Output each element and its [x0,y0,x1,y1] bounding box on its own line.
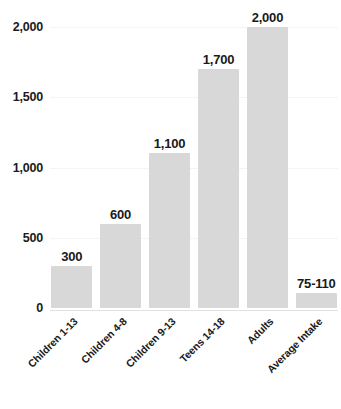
bar-value-label: 75-110 [297,276,336,291]
bar-group: 1,700 [198,0,239,309]
bar[interactable] [100,224,141,308]
bar-group: 2,000 [247,0,288,309]
bar[interactable] [247,27,288,308]
y-axis-tick-label: 2,000 [13,20,43,34]
bar-group: 300 [51,0,92,309]
bar-series: 3006001,1001,7002,00075-110 [50,0,338,309]
bar-value-label: 2,000 [252,10,284,25]
bar[interactable] [51,266,92,308]
x-axis-tick-label: Children 9-13 [123,315,178,370]
bar-value-label: 1,100 [154,136,186,151]
bar-group: 75-110 [296,0,337,309]
y-axis-tick-label: 1,500 [13,90,43,104]
bar[interactable] [149,153,190,308]
x-axis-category-labels: Children 1-13Children 4-8Children 9-13Te… [50,311,338,409]
bar[interactable] [296,293,337,308]
bar-value-label: 300 [61,249,82,264]
x-axis-tick-label: Children 4-8 [79,315,130,366]
bar-chart: 05001,0001,5002,000 3006001,1001,7002,00… [0,0,341,409]
plot-area: 3006001,1001,7002,00075-110 [50,0,338,309]
y-axis-tick-label: 0 [36,301,43,315]
x-axis-tick-label: Adults [245,315,276,346]
x-axis-tick-label: Teens 14-18 [177,315,227,365]
y-axis-tick-label: 500 [23,231,43,245]
bar-group: 1,100 [149,0,190,309]
bar-group: 600 [100,0,141,309]
bar-value-label: 600 [110,207,131,222]
bar-value-label: 1,700 [203,52,235,67]
bar[interactable] [198,69,239,308]
y-axis-tick-label: 1,000 [13,161,43,175]
